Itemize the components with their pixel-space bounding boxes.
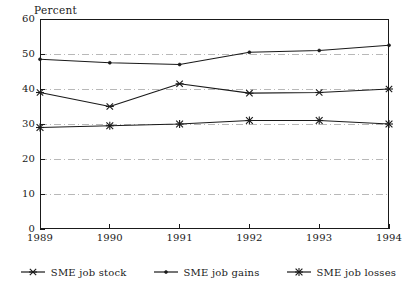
series-2: [39, 44, 391, 66]
x-axis-tick-label: 1991: [160, 233, 200, 243]
legend-label: SME job losses: [317, 267, 397, 278]
y-axis-tick-label: 30: [5, 119, 35, 129]
y-axis-tick-label: 10: [5, 189, 35, 199]
y-axis-tick-label: 50: [5, 49, 35, 59]
y-axis-tick-label: 60: [5, 14, 35, 24]
x-axis-tick-label: 1990: [90, 233, 130, 243]
chart-figure: Percent 0102030405060 198919901991199219…: [0, 0, 416, 293]
legend-label: SME job gains: [184, 267, 260, 278]
chart-legend: SME job stockSME job gainsSME job losses: [0, 262, 416, 282]
x-axis-tick-label: 1994: [369, 233, 409, 243]
legend-item-1: SME job stock: [20, 266, 127, 278]
series-line: [40, 84, 389, 107]
data-point-marker: [39, 58, 42, 61]
data-point-marker: [164, 271, 167, 274]
x-axis-tick-label: 1993: [299, 233, 339, 243]
y-axis-tick-label: 20: [5, 154, 35, 164]
x-axis-tick-label: 1989: [20, 233, 60, 243]
plot-canvas: [40, 19, 389, 229]
x-axis-tick-label: 1992: [229, 233, 269, 243]
y-axis-tick-label: 40: [5, 84, 35, 94]
legend-item-3: SME job losses: [286, 266, 397, 278]
series-line: [40, 45, 389, 64]
legend-marker-icon: [286, 266, 312, 278]
legend-label: SME job stock: [51, 267, 127, 278]
series-1: [36, 81, 393, 110]
data-point-marker: [388, 44, 391, 47]
y-axis-title: Percent: [34, 4, 77, 16]
data-point-marker: [318, 49, 321, 52]
data-point-marker: [248, 51, 251, 54]
data-point-marker: [178, 63, 181, 66]
legend-marker-icon: [20, 266, 46, 278]
legend-marker-icon: [153, 266, 179, 278]
data-point-marker: [108, 61, 111, 64]
legend-item-2: SME job gains: [153, 266, 260, 278]
